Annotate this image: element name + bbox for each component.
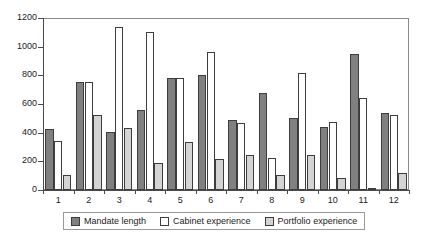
legend-swatch-icon — [160, 217, 169, 226]
bar-cabinet-experience-3 — [115, 27, 123, 190]
bar-mandate-length-11 — [350, 54, 358, 190]
bar-cabinet-experience-4 — [146, 32, 154, 190]
x-axis-tick-label: 10 — [318, 195, 349, 205]
legend-label: Mandate length — [84, 216, 146, 226]
bar-mandate-length-12 — [381, 113, 389, 190]
x-axis-tick-label: 6 — [196, 195, 227, 205]
y-axis-labels: 020040060080010001200 — [0, 0, 37, 208]
bar-mandate-length-9 — [289, 118, 297, 190]
y-axis-tick-label: 800 — [3, 70, 37, 79]
bar-portfolio-experience-1 — [63, 175, 71, 190]
bar-mandate-length-8 — [259, 93, 267, 190]
x-axis-tick-label: 7 — [226, 195, 257, 205]
legend-swatch-icon — [71, 217, 80, 226]
x-axis-tick — [409, 190, 410, 194]
x-axis-tick-label: 12 — [379, 195, 410, 205]
bar-chart: 020040060080010001200 123456789101112 Ma… — [0, 0, 424, 244]
bar-cabinet-experience-6 — [207, 52, 215, 190]
bar-cabinet-experience-9 — [298, 73, 306, 190]
x-axis-tick — [74, 190, 75, 194]
x-axis-tick-label: 3 — [104, 195, 135, 205]
legend-swatch-icon — [265, 217, 274, 226]
legend-item-portfolio-experience: Portfolio experience — [265, 216, 358, 226]
bar-mandate-length-1 — [45, 129, 53, 190]
bar-portfolio-experience-9 — [307, 155, 315, 190]
y-axis-tick-label: 1200 — [3, 13, 37, 22]
x-axis-tick — [379, 190, 380, 194]
x-axis-tick — [287, 190, 288, 194]
legend-label: Cabinet experience — [173, 216, 251, 226]
x-axis-tick-label: 4 — [135, 195, 166, 205]
bar-cabinet-experience-1 — [54, 141, 62, 190]
bars-layer — [43, 18, 409, 190]
x-axis-tick — [196, 190, 197, 194]
x-axis-tick — [348, 190, 349, 194]
bar-cabinet-experience-11 — [359, 98, 367, 190]
bar-cabinet-experience-5 — [176, 78, 184, 190]
bar-mandate-length-2 — [76, 82, 84, 190]
bar-cabinet-experience-12 — [390, 115, 398, 190]
x-axis-tick-label: 1 — [43, 195, 74, 205]
y-axis-tick-label: 0 — [3, 185, 37, 194]
x-axis-tick-label: 8 — [257, 195, 288, 205]
chart-legend: Mandate lengthCabinet experiencePortfoli… — [63, 212, 365, 230]
bar-mandate-length-6 — [198, 75, 206, 190]
x-axis-tick-label: 11 — [348, 195, 379, 205]
y-axis-tick-label: 400 — [3, 128, 37, 137]
x-axis-tick — [226, 190, 227, 194]
bar-portfolio-experience-12 — [398, 173, 406, 190]
x-axis-tick-label: 2 — [74, 195, 105, 205]
legend-item-cabinet-experience: Cabinet experience — [160, 216, 251, 226]
x-axis-tick-label: 9 — [287, 195, 318, 205]
y-axis-tick-label: 1000 — [3, 42, 37, 51]
bar-portfolio-experience-6 — [215, 159, 223, 190]
bar-portfolio-experience-5 — [185, 142, 193, 190]
bar-cabinet-experience-10 — [329, 122, 337, 190]
x-axis-tick — [104, 190, 105, 194]
x-axis-tick — [43, 190, 44, 194]
bar-cabinet-experience-7 — [237, 123, 245, 190]
legend-item-mandate-length: Mandate length — [71, 216, 146, 226]
bar-mandate-length-4 — [137, 110, 145, 190]
bar-mandate-length-5 — [167, 78, 175, 190]
x-axis-tick — [135, 190, 136, 194]
x-axis-tick — [257, 190, 258, 194]
bar-mandate-length-7 — [228, 120, 236, 190]
y-axis-tick-label: 200 — [3, 156, 37, 165]
x-axis-tick — [318, 190, 319, 194]
bar-mandate-length-10 — [320, 127, 328, 190]
legend-label: Portfolio experience — [278, 216, 358, 226]
x-axis-tick — [165, 190, 166, 194]
bar-portfolio-experience-8 — [276, 175, 284, 190]
bar-portfolio-experience-10 — [337, 178, 345, 190]
bar-cabinet-experience-8 — [268, 158, 276, 190]
x-axis-tick-label: 5 — [165, 195, 196, 205]
bar-mandate-length-3 — [106, 132, 114, 190]
bar-portfolio-experience-4 — [154, 163, 162, 190]
bar-portfolio-experience-3 — [124, 128, 132, 190]
bar-portfolio-experience-2 — [93, 115, 101, 190]
y-axis-tick-label: 600 — [3, 99, 37, 108]
bar-portfolio-experience-7 — [246, 155, 254, 190]
bar-cabinet-experience-2 — [85, 82, 93, 190]
bar-portfolio-experience-11 — [368, 188, 376, 190]
